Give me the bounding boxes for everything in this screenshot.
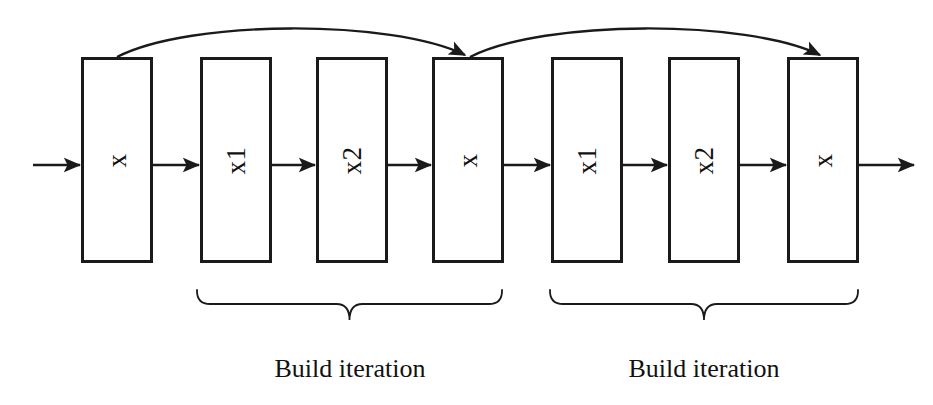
stage-label: x bbox=[790, 60, 856, 260]
group-2-caption: Build iteration bbox=[564, 354, 844, 384]
stage-label-text: x bbox=[453, 153, 484, 167]
feedback-2 bbox=[470, 28, 820, 57]
stage-label: x2 bbox=[319, 60, 385, 260]
feedback-arrow-layer bbox=[117, 28, 820, 57]
stage-label: x bbox=[84, 60, 150, 260]
feedback-1 bbox=[117, 28, 465, 57]
stage-box-x2-3[interactable]: x2 bbox=[316, 57, 388, 263]
stage-box-x1-5[interactable]: x1 bbox=[551, 57, 623, 263]
stage-label: x bbox=[435, 60, 501, 260]
group-2-brace bbox=[550, 290, 858, 320]
group-brace-layer bbox=[197, 290, 858, 320]
stage-label-text: x bbox=[102, 153, 133, 167]
stage-label-text: x2 bbox=[689, 146, 720, 174]
stage-label: x2 bbox=[671, 60, 737, 260]
stage-label-text: x1 bbox=[221, 146, 252, 174]
stage-label: x1 bbox=[554, 60, 620, 260]
stage-label-text: x1 bbox=[572, 146, 603, 174]
stage-box-x1-2[interactable]: x1 bbox=[200, 57, 272, 263]
diagram-canvas: xx1x2xx1x2x Build iterationBuild iterati… bbox=[0, 0, 933, 405]
stage-label-text: x bbox=[808, 153, 839, 167]
stage-box-x2-6[interactable]: x2 bbox=[668, 57, 740, 263]
stage-box-x-4[interactable]: x bbox=[432, 57, 504, 263]
stage-label-text: x2 bbox=[337, 146, 368, 174]
group-1-brace bbox=[197, 290, 502, 320]
group-1-caption: Build iteration bbox=[210, 354, 490, 384]
stage-box-x-1[interactable]: x bbox=[81, 57, 153, 263]
stage-box-x-7[interactable]: x bbox=[787, 57, 859, 263]
stage-label: x1 bbox=[203, 60, 269, 260]
